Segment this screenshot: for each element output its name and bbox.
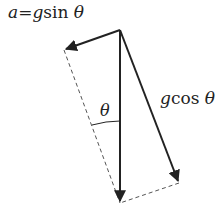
var-theta: θ bbox=[74, 2, 84, 22]
angle-label: θ bbox=[100, 101, 110, 120]
tangential-acceleration-label: a=gsin θ bbox=[8, 2, 84, 22]
equals-sign: = bbox=[18, 2, 32, 22]
sin-fn: sin bbox=[43, 2, 68, 22]
var-g: g bbox=[160, 88, 171, 108]
tangential-vector bbox=[66, 30, 120, 49]
normal-component-label: gcos θ bbox=[160, 88, 215, 108]
var-g: g bbox=[32, 2, 43, 22]
force-decomposition-diagram: a=gsin θ gcos θ θ bbox=[0, 0, 222, 212]
var-theta: θ bbox=[205, 88, 215, 108]
dashed-line-left bbox=[64, 50, 120, 203]
var-a: a bbox=[8, 2, 18, 22]
dashed-line-bottom bbox=[120, 183, 179, 203]
angle-arc bbox=[92, 121, 120, 125]
cos-fn: cos bbox=[171, 88, 199, 108]
